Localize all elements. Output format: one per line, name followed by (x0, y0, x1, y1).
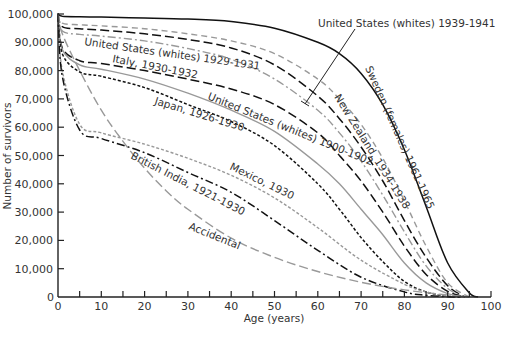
y-tick-label: 40,000 (15, 178, 54, 191)
y-tick-label: 30,000 (15, 206, 54, 219)
x-tick-label: 100 (481, 300, 502, 313)
y-tick-label: 50,000 (15, 150, 54, 163)
y-axis-title: Number of survivors (1, 103, 13, 210)
x-tick-label: 80 (397, 300, 411, 313)
x-axis-title: Age (years) (244, 312, 305, 324)
x-tick-label: 70 (354, 300, 368, 313)
label-british-india: British India, 1921-1930 (129, 149, 247, 217)
label-us-1939-1941: United States (whites) 1939-1941 (318, 17, 495, 29)
y-tick-label: 100,000 (8, 8, 54, 21)
y-tick-label: 80,000 (15, 65, 54, 78)
survivorship-chart: 010,00020,00030,00040,00050,00060,00070,… (0, 0, 518, 340)
x-tick-label: 0 (55, 300, 62, 313)
x-tick-label: 30 (181, 300, 195, 313)
x-tick-label: 10 (94, 300, 108, 313)
y-tick-label: 20,000 (15, 234, 54, 247)
x-tick-label: 60 (311, 300, 325, 313)
x-tick-label: 90 (441, 300, 455, 313)
y-tick-label: 0 (47, 291, 54, 304)
x-tick-label: 40 (224, 300, 238, 313)
y-ticks: 010,00020,00030,00040,00050,00060,00070,… (8, 8, 65, 304)
y-tick-label: 70,000 (15, 93, 54, 106)
y-tick-label: 60,000 (15, 121, 54, 134)
label-accidental: Accidental (187, 220, 242, 252)
x-tick-label: 20 (138, 300, 152, 313)
y-tick-label: 10,000 (15, 263, 54, 276)
label-mexico: Mexico, 1930 (228, 160, 296, 201)
y-tick-label: 90,000 (15, 36, 54, 49)
